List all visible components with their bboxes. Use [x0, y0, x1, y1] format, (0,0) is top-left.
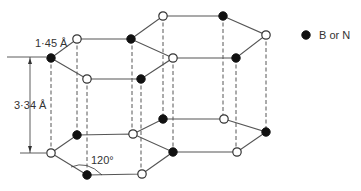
atom-open: [233, 148, 241, 156]
bond-angle-label: 120°: [91, 154, 114, 166]
arrow-down-icon: [28, 146, 32, 152]
bottom-layer-bonds: [51, 119, 266, 175]
legend: B or N: [302, 29, 350, 41]
top-layer-bonds: [51, 16, 266, 79]
bond-length-label: 1·45 Å: [35, 37, 68, 49]
bottom-layer-atoms: [47, 115, 270, 179]
interlayer-spacing-label: 3·34 Å: [14, 99, 47, 111]
atom-open: [159, 12, 167, 20]
atom-filled: [169, 148, 177, 156]
atom-open: [73, 35, 81, 43]
atom-filled: [219, 12, 227, 20]
atom-filled: [232, 54, 240, 62]
atom-open: [129, 130, 137, 138]
atom-open: [138, 170, 146, 178]
atom-filled: [137, 75, 145, 83]
atom-open: [220, 115, 228, 123]
legend-label: B or N: [319, 29, 350, 41]
atom-open: [83, 75, 91, 83]
arrow-up-icon: [28, 58, 32, 64]
atom-filled: [262, 128, 270, 136]
atom-filled: [159, 115, 167, 123]
atom-open: [262, 31, 270, 39]
atom-filled: [73, 131, 81, 139]
atom-filled: [83, 171, 91, 179]
hbn-structure-diagram: 1·45 Å 3·34 Å 120° B or N: [0, 0, 361, 191]
atom-open: [47, 149, 55, 157]
atom-filled: [127, 35, 135, 43]
atom-filled: [47, 54, 55, 62]
atom-open: [169, 54, 177, 62]
legend-filled-circle-icon: [302, 31, 310, 39]
